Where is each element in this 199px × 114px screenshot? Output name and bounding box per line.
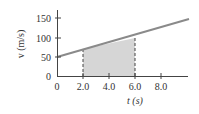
y-axis-label: v (m/s) bbox=[15, 30, 27, 59]
y-tick-label: 100 bbox=[36, 33, 51, 44]
x-axis-label: t (s) bbox=[127, 95, 144, 107]
y-tick-label: 50 bbox=[41, 52, 51, 63]
y-tick-label: 0 bbox=[46, 71, 51, 82]
x-tick-label: 8.0 bbox=[155, 81, 168, 92]
velocity-time-chart: 150 100 50 0 0 2.0 4.0 6.0 8.0 t (s) v (… bbox=[0, 0, 199, 114]
y-tick-label: 150 bbox=[36, 13, 51, 24]
shaded-area bbox=[83, 38, 135, 76]
x-tick-label: 0 bbox=[55, 81, 60, 92]
x-tick-label: 2.0 bbox=[77, 81, 90, 92]
x-tick-label: 6.0 bbox=[129, 81, 142, 92]
x-tick-label: 4.0 bbox=[103, 81, 116, 92]
